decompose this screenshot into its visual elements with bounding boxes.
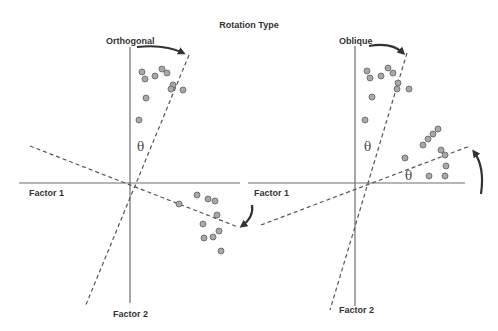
factor-1-label: Factor 1 <box>254 188 289 198</box>
data-point <box>205 196 211 202</box>
data-point <box>364 68 370 74</box>
theta-symbol: θ <box>405 169 412 183</box>
data-point <box>136 117 142 123</box>
data-point <box>212 198 218 204</box>
data-point <box>394 86 400 92</box>
data-point <box>395 80 401 86</box>
factor-1-label: Factor 1 <box>29 188 64 198</box>
data-point <box>430 131 436 137</box>
factor-2-label: Factor 2 <box>113 309 148 319</box>
rotated-factor-2-axis <box>85 55 189 307</box>
data-point <box>210 234 216 240</box>
rotated-factor-1-axis <box>261 146 470 225</box>
data-point <box>406 86 412 92</box>
orthogonal-panel: Orthogonal θ Factor 1 Factor 2 <box>19 36 252 319</box>
data-point <box>214 212 220 218</box>
data-point <box>425 136 431 142</box>
data-point <box>218 248 224 254</box>
data-point <box>442 173 448 179</box>
rotation-arrow-icon <box>369 45 403 53</box>
data-point <box>159 66 165 72</box>
rotation-type-diagram: Rotation Type Orthogonal θ Factor 1 Fact… <box>0 0 498 331</box>
data-point <box>438 147 444 153</box>
data-point <box>367 75 373 81</box>
data-point <box>435 126 441 132</box>
data-point <box>168 86 174 92</box>
data-point <box>426 173 432 179</box>
rotation-arrow-icon <box>242 205 252 226</box>
rotation-arrow-icon <box>137 46 183 53</box>
data-point <box>402 155 408 161</box>
data-point <box>152 73 158 79</box>
data-point <box>369 94 375 100</box>
data-point <box>216 228 222 234</box>
data-point <box>176 201 182 207</box>
data-point <box>180 87 186 93</box>
data-point <box>420 142 426 148</box>
rotated-factor-1-axis <box>30 146 238 227</box>
data-point <box>142 76 148 82</box>
data-point <box>164 70 170 76</box>
data-point <box>194 192 200 198</box>
data-point <box>378 73 384 79</box>
data-point <box>443 163 449 169</box>
data-point <box>143 95 149 101</box>
rotation-arrow-icon <box>474 152 482 194</box>
data-point <box>201 235 207 241</box>
diagram-title: Rotation Type <box>219 20 278 30</box>
data-point <box>139 69 145 75</box>
theta-symbol: θ <box>364 140 371 154</box>
data-point <box>442 152 448 158</box>
factor-2-label: Factor 2 <box>339 305 374 315</box>
orthogonal-label: Orthogonal <box>106 36 155 46</box>
data-point <box>362 117 368 123</box>
data-point <box>385 65 391 71</box>
oblique-label: Oblique <box>339 36 373 46</box>
data-point <box>390 70 396 76</box>
data-points <box>362 65 449 179</box>
theta-symbol: θ <box>137 140 144 154</box>
oblique-panel: Oblique θ θ Factor 1 Factor 2 <box>248 36 482 315</box>
data-point <box>200 221 206 227</box>
data-points <box>136 66 224 254</box>
